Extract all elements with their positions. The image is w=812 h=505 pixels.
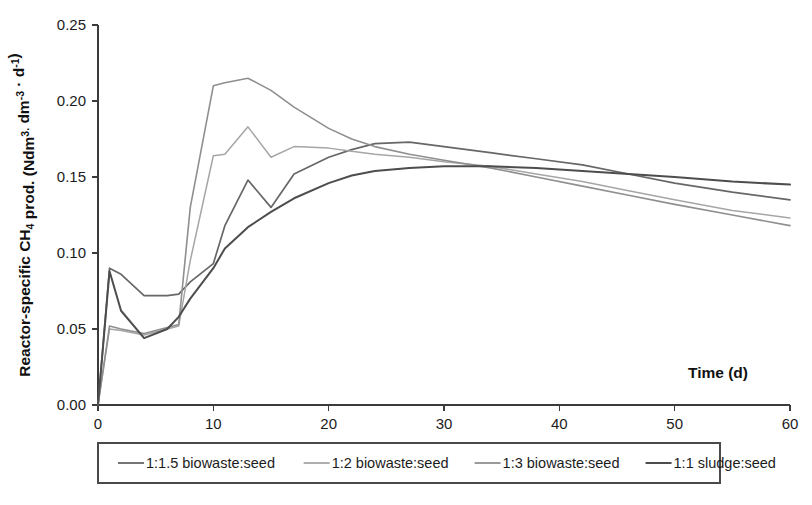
x-tick-label: 20 [320, 415, 337, 432]
y-axis: 0.000.050.100.150.200.25 [57, 16, 98, 413]
x-tick-label: 50 [666, 415, 683, 432]
x-tick-label: 0 [94, 415, 102, 432]
x-axis-title: Time (d) [688, 364, 748, 381]
x-tick-label: 40 [551, 415, 568, 432]
y-tick-label: 0.15 [57, 168, 86, 185]
x-axis: 0102030405060 [94, 405, 799, 432]
y-tick-label: 0.25 [57, 16, 86, 33]
y-tick-label: 0.05 [57, 320, 86, 337]
y-tick-label: 0.10 [57, 244, 86, 261]
y-axis-title: Reactor-specific CH4 prod. (Ndm3. dm-3 ·… [5, 53, 37, 377]
legend-label-2: 1:2 biowaste:seed [332, 455, 449, 471]
legend-label-4: 1:1 sludge:seed [674, 455, 776, 471]
y-tick-label: 0.20 [57, 92, 86, 109]
x-tick-label: 60 [782, 415, 799, 432]
legend-label-3: 1:3 biowaste:seed [503, 455, 620, 471]
series-line-2 [98, 127, 790, 405]
x-tick-label: 30 [436, 415, 453, 432]
y-tick-label: 0.00 [57, 396, 86, 413]
series-line-1 [98, 142, 790, 405]
legend-label-1: 1:1.5 biowaste:seed [146, 455, 275, 471]
line-chart: Reactor-specific CH4 prod. (Ndm3. dm-3 ·… [0, 0, 812, 505]
series-layer [98, 78, 790, 405]
series-line-3 [98, 78, 790, 405]
x-tick-label: 10 [205, 415, 222, 432]
chart-legend: 1:1.5 biowaste:seed1:2 biowaste:seed1:3 … [98, 443, 776, 483]
chart-figure: Reactor-specific CH4 prod. (Ndm3. dm-3 ·… [0, 0, 812, 505]
svg-text:Reactor-specific CH4 prod. (Nd: Reactor-specific CH4 prod. (Ndm3. dm-3 ·… [5, 53, 37, 377]
